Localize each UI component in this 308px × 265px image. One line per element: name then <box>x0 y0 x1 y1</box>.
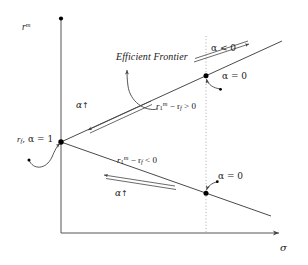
diagram-canvas <box>0 0 308 265</box>
inequality-positive-label: r1m − rf > 0 <box>156 101 196 112</box>
alpha-increase-bottom-label: α↑ <box>115 189 128 198</box>
alpha-zero-top-label: α = 0 <box>222 72 247 81</box>
alpha-zero-top-callout-arrow <box>207 79 222 91</box>
risk-free-point-label: rf, α = 1 <box>17 135 53 145</box>
lower-tangency-marker <box>204 191 209 196</box>
alpha-negative-label: α < 0 <box>211 44 236 53</box>
efficient-frontier-diagram: rm σ Efficient Frontier rf, α = 1 α < 0 … <box>0 0 308 265</box>
y-axis <box>59 16 63 233</box>
alpha-zero-bottom-callout-arrow <box>207 180 219 190</box>
alpha-zero-bottom-label: α = 0 <box>218 172 243 181</box>
alpha-increase-upper-arrow <box>88 101 152 133</box>
rf-callout-arrow <box>28 144 61 168</box>
upper-tangency-marker <box>204 73 209 78</box>
y-axis-label: rm <box>22 22 30 32</box>
efficient-frontier-label: Efficient Frontier <box>116 52 188 62</box>
alpha-increase-top-label: α↑ <box>76 101 89 110</box>
x-axis-label: σ <box>280 243 287 253</box>
efficient-frontier-callout-arrow <box>127 70 158 109</box>
inequality-negative-label: r1m − rf < 0 <box>117 155 157 166</box>
